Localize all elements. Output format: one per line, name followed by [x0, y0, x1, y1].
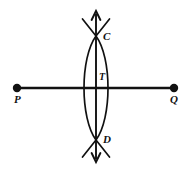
- point-label-D: D: [103, 134, 111, 145]
- arc-extension-top-left: [83, 19, 97, 36]
- geometry-figure: P Q C D T: [0, 0, 192, 171]
- geometry-canvas: [0, 0, 192, 171]
- point-P-dot: [13, 84, 21, 92]
- arc-extension-bottom-left: [83, 140, 97, 157]
- point-label-T: T: [99, 72, 105, 82]
- point-label-C: C: [103, 31, 110, 42]
- point-label-Q: Q: [170, 94, 178, 105]
- point-Q-dot: [170, 84, 178, 92]
- point-label-P: P: [14, 94, 21, 105]
